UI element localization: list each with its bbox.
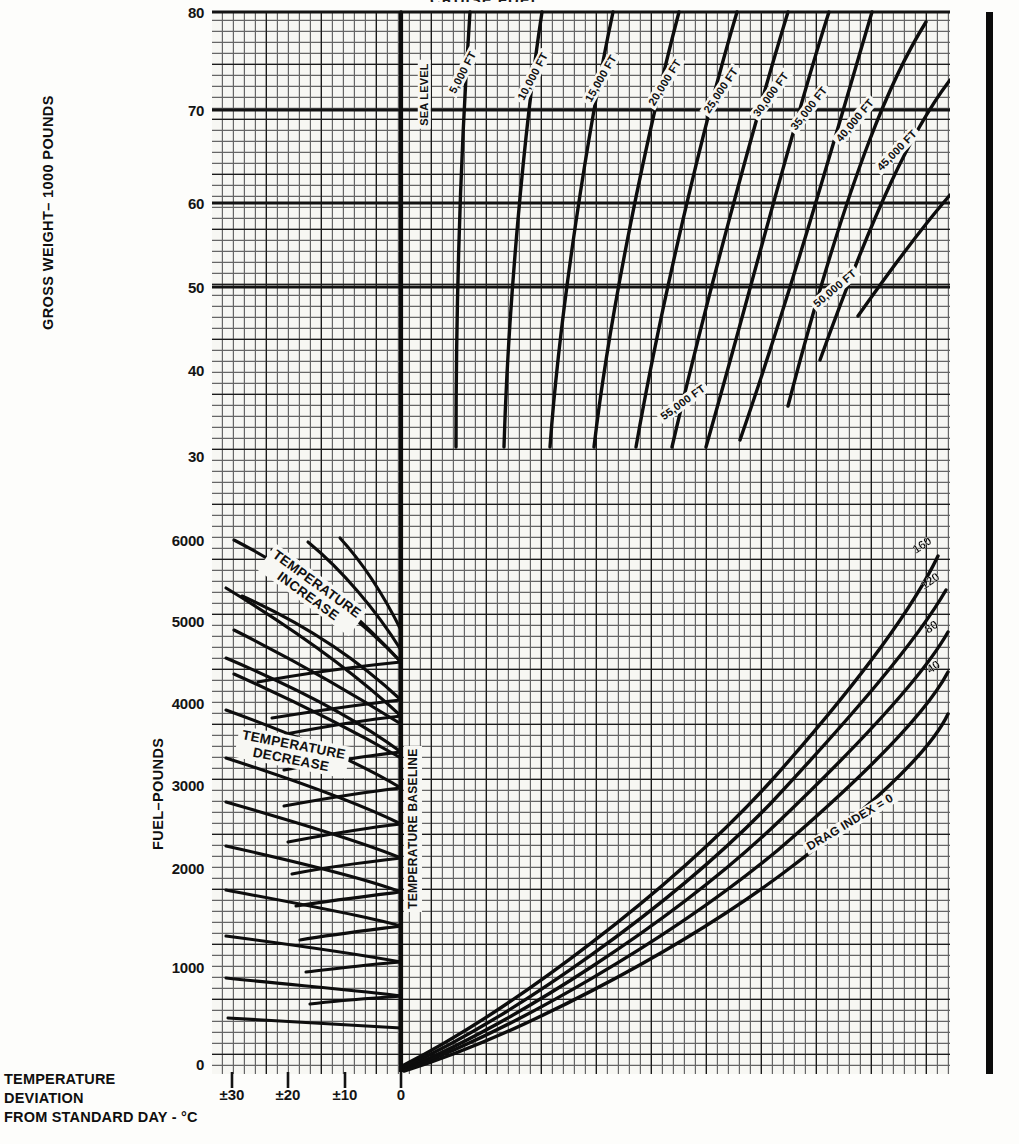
gw-tick-70: 70	[158, 102, 204, 119]
gw-tick-80: 80	[158, 4, 204, 21]
x-caption-line2: DEVIATION	[4, 1089, 198, 1108]
gw-tick-40: 40	[158, 362, 204, 379]
gw-tick-30: 30	[158, 448, 204, 465]
chart-svg: 160 120 80 40	[212, 10, 950, 1082]
callout-sea-level: SEA LEVEL	[418, 60, 431, 129]
right-edge-rule	[986, 12, 993, 1074]
gw-tick-60: 60	[158, 195, 204, 212]
plot-area: 160 120 80 40 SEA LEVEL 5,000 FT 10,000 …	[212, 10, 950, 1082]
callout-temperature-baseline: TEMPERATURE BASELINE	[404, 746, 422, 912]
chart-page: CRUISE FUEL REQUIRED	[0, 0, 1019, 1144]
gw-tick-50: 50	[158, 279, 204, 296]
fuel-tick-4000: 4000	[138, 695, 204, 712]
graticule	[212, 12, 950, 1074]
fuel-tick-6000: 6000	[138, 532, 204, 549]
x-caption-line1: TEMPERATURE	[4, 1070, 198, 1089]
clipped-chart-title: CRUISE FUEL REQUIRED	[430, 0, 620, 2]
fuel-tick-5000: 5000	[138, 613, 204, 630]
fuel-tick-2000: 2000	[138, 860, 204, 877]
fuel-tick-3000: 3000	[138, 777, 204, 794]
x-axis-caption: TEMPERATURE DEVIATION FROM STANDARD DAY …	[4, 1070, 198, 1127]
gross-weight-axis-title: GROSS WEIGHT– 1000 POUNDS	[40, 95, 56, 330]
fuel-tick-1000: 1000	[138, 959, 204, 976]
x-caption-line3: FROM STANDARD DAY - °C	[4, 1108, 198, 1127]
x-axis-ticks	[212, 1072, 950, 1094]
